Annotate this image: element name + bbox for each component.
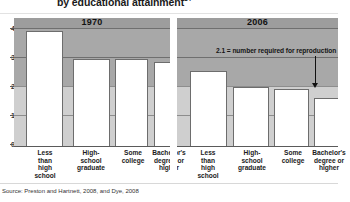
x-label-line: high — [185, 164, 231, 172]
x-label-line: Less — [22, 149, 68, 157]
x-label-2006-bachelors-or-higher: Bachelor's degree or higher — [307, 149, 350, 172]
source-note: Source: Preston and Hartnett, 2008, and … — [2, 188, 139, 194]
bar-2006-less-than-high-school — [190, 71, 227, 146]
x-label-1970-bachelors-or-higher: Bachelor's degree or higher — [148, 149, 190, 172]
x-label-line: High- — [228, 149, 276, 157]
x-label-line: higher — [148, 164, 190, 172]
x-label-line: Bachelor's — [148, 149, 190, 157]
x-label-line: graduate — [228, 164, 276, 172]
panel-label-1970: 1970 — [14, 17, 170, 27]
bar-2006-some-college — [274, 89, 309, 146]
x-label-line: than — [22, 157, 68, 165]
x-label-line: degree or — [148, 157, 190, 165]
x-label-line: than — [185, 157, 231, 165]
x-label-1970-less-than-high-school: Less than high school — [22, 149, 68, 179]
reproduction-annotation: 2.1 = number required for reproduction — [216, 47, 336, 54]
x-label-line: Less — [185, 149, 231, 157]
bottom-divider — [0, 183, 338, 184]
panel-2006 — [177, 18, 338, 146]
bar-2006-high-school-graduate — [233, 87, 269, 146]
x-label-line: Bachelor's — [307, 149, 350, 157]
bar-2006-bachelors-or-higher — [314, 98, 338, 146]
gridline-1970-4 — [14, 28, 170, 29]
panel-separator — [170, 18, 177, 178]
x-label-line: higher — [307, 164, 350, 172]
x-label-line: graduate — [67, 164, 115, 172]
annotation-arrow-stem — [315, 56, 316, 84]
x-label-line: school — [22, 172, 68, 180]
annotation-arrow-icon — [312, 83, 318, 88]
gridline-2006-4 — [177, 28, 338, 29]
x-label-line: Some — [113, 149, 153, 157]
x-label-line: high — [22, 164, 68, 172]
x-label-1970-some-college: Some college — [113, 149, 153, 164]
chart-title: by educational attainment14 — [0, 0, 338, 14]
x-label-line: school — [228, 157, 276, 165]
x-label-1970-high-school-graduate: High- school graduate — [67, 149, 115, 172]
x-label-line: college — [113, 157, 153, 165]
y-axis: 4 3 2 1 0 — [0, 18, 15, 150]
x-label-line: school — [185, 172, 231, 180]
bar-1970-high-school-graduate — [73, 59, 110, 146]
gridline-2006-3 — [177, 57, 338, 58]
bar-1970-some-college — [115, 59, 148, 146]
x-label-2006-less-than-high-school: Less than high school — [185, 149, 231, 179]
chart-title-text: by educational attainment — [57, 0, 184, 8]
x-label-line: school — [67, 157, 115, 165]
x-label-line: High- — [67, 149, 115, 157]
x-label-2006-high-school-graduate: High- school graduate — [228, 149, 276, 172]
x-label-line: degree or — [307, 157, 350, 165]
bar-1970-less-than-high-school — [26, 31, 63, 146]
bar-1970-bachelors-or-higher — [154, 62, 170, 146]
panel-1970 — [14, 18, 170, 146]
chart-title-line2: by educational attainment14 — [57, 0, 191, 8]
chart-title-footnote: 14 — [184, 0, 191, 2]
panel-label-2006: 2006 — [177, 17, 338, 27]
